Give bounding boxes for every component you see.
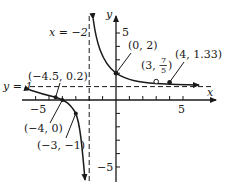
y-tick-label-neg5: −5 [97, 161, 113, 174]
rational-function-graph: x y −5 5 5 −5 x = −2 y = 1 (0, 2) (3, 7 … [0, 0, 226, 189]
label-neg4-0: (−4, 0) [24, 122, 63, 135]
point-3-7-5-open [154, 79, 159, 84]
vertical-asymptote-label: x = −2 [49, 26, 88, 39]
y-axis-label: y [105, 8, 113, 21]
label-neg4-5-0-2: (−4.5, 0.2) [28, 70, 88, 83]
x-axis-label: x [207, 86, 214, 99]
y-tick-label-5: 5 [122, 26, 129, 39]
x-tick-label-neg5: −5 [30, 103, 46, 116]
label-4-1-33: (4, 1.33) [175, 48, 222, 61]
label-3-numerator: 7 [161, 56, 166, 65]
axes [22, 16, 216, 182]
label-neg3-neg1: (−3, −1) [37, 139, 85, 152]
label-3-denominator: 5 [161, 66, 166, 75]
x-tick-label-5: 5 [178, 103, 185, 116]
label-3-open: (3, [141, 59, 156, 72]
label-0-2: (0, 2) [128, 39, 158, 52]
label-3-close: ) [168, 59, 172, 72]
